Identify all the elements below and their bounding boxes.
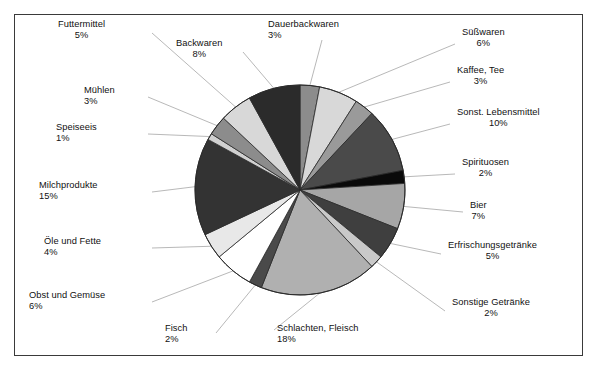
label-name: Mühlen xyxy=(84,85,115,96)
label-name: Obst und Gemüse xyxy=(29,290,105,301)
label-value: 4% xyxy=(44,247,101,258)
label-value: 6% xyxy=(462,38,505,49)
label-name: Schlachten, Fleisch xyxy=(277,323,359,334)
label-name: Erfrischungsgetränke xyxy=(448,240,537,251)
leader-line xyxy=(404,174,455,177)
leader-line xyxy=(152,187,195,192)
leader-line xyxy=(404,206,463,212)
leader-line xyxy=(152,271,233,302)
label-value: 7% xyxy=(470,211,487,222)
label-sonst-lebensmittel: Sonst. Lebensmittel 10% xyxy=(457,107,540,129)
label-name: Fisch xyxy=(165,323,187,334)
label-value: 8% xyxy=(176,49,222,60)
label-name: Futtermittel xyxy=(58,19,105,30)
label-spirituosen: Spirituosen 2% xyxy=(462,157,509,179)
label-dauerbackwaren: Dauerbackwaren 3% xyxy=(268,19,339,41)
label-muehlen: Mühlen 3% xyxy=(84,85,115,107)
label-value: 15% xyxy=(39,191,98,202)
label-name: Dauerbackwaren xyxy=(268,19,339,30)
label-fisch: Fisch 2% xyxy=(165,323,187,345)
leader-line xyxy=(216,285,255,333)
chart-page: Futtermittel 5% Backwaren 8% Dauerbackwa… xyxy=(0,0,601,373)
label-value: 2% xyxy=(452,308,530,319)
leader-line xyxy=(148,134,210,137)
label-name: Spirituosen xyxy=(462,157,509,168)
label-schlachten-fleisch: Schlachten, Fleisch 18% xyxy=(277,323,359,345)
leader-line xyxy=(377,262,445,311)
leader-line xyxy=(339,44,455,92)
label-name: Kaffee, Tee xyxy=(457,65,504,76)
label-suesswaren: Süßwaren 6% xyxy=(462,27,505,49)
label-kaffee-tee: Kaffee, Tee 3% xyxy=(457,65,504,87)
label-value: 2% xyxy=(165,334,187,345)
label-oele-und-fette: Öle und Fette 4% xyxy=(44,236,101,258)
label-bier: Bier 7% xyxy=(470,200,487,222)
label-name: Sonst. Lebensmittel xyxy=(457,107,540,118)
label-name: Backwaren xyxy=(176,38,222,49)
label-value: 18% xyxy=(277,334,359,345)
leader-line xyxy=(392,124,450,139)
label-name: Süßwaren xyxy=(462,27,505,38)
label-futtermittel: Futtermittel 5% xyxy=(58,19,105,41)
label-value: 1% xyxy=(56,133,97,144)
label-name: Öle und Fette xyxy=(44,236,101,247)
leader-line xyxy=(152,246,211,248)
label-name: Bier xyxy=(470,200,487,211)
label-milchprodukte: Milchprodukte 15% xyxy=(39,180,98,202)
label-value: 2% xyxy=(462,168,509,179)
label-backwaren: Backwaren 8% xyxy=(176,38,222,60)
pie-slices xyxy=(195,85,405,295)
leader-line xyxy=(364,82,450,107)
label-value: 6% xyxy=(29,301,105,312)
label-value: 5% xyxy=(58,30,105,41)
label-obst-und-gemuese: Obst und Gemüse 6% xyxy=(29,290,105,312)
label-sonstige-getraenke: Sonstige Getränke 2% xyxy=(452,297,530,319)
label-value: 3% xyxy=(268,30,339,41)
label-erfrischungsgetraenke: Erfrischungsgetränke 5% xyxy=(448,240,537,262)
label-value: 3% xyxy=(457,76,504,87)
label-value: 5% xyxy=(448,251,537,262)
label-name: Sonstige Getränke xyxy=(452,297,530,308)
leader-line xyxy=(390,243,441,254)
label-name: Speiseeis xyxy=(56,122,97,133)
leader-line xyxy=(148,97,217,126)
label-value: 10% xyxy=(457,118,540,129)
label-name: Milchprodukte xyxy=(39,180,98,191)
leader-line xyxy=(310,40,322,85)
leader-line xyxy=(243,52,274,88)
label-speiseeis: Speiseeis 1% xyxy=(56,122,97,144)
label-value: 3% xyxy=(84,96,115,107)
